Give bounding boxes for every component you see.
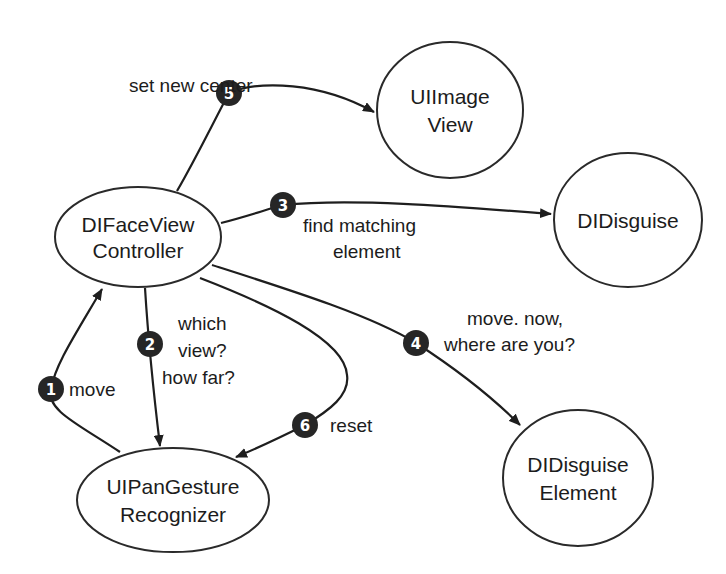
node-label-line-1: DIDisguise (577, 209, 679, 232)
edge-label-set-new-center: set new center (129, 75, 253, 96)
node-label-line-2: Element (539, 481, 616, 504)
node-label-line-1: UIImage (410, 85, 489, 108)
edge-label-element: element (333, 241, 401, 262)
flow-diagram: DIFaceView Controller UIImage View DIDis… (0, 0, 726, 574)
node-label-line-2: View (427, 113, 473, 136)
svg-text:4: 4 (411, 335, 421, 353)
node-di-disguise-element: DIDisguise Element (503, 410, 653, 546)
node-label-line-1: DIDisguise (527, 453, 629, 476)
node-label-line-1: DIFaceView (82, 213, 196, 236)
node-di-disguise: DIDisguise (554, 153, 702, 287)
node-label-line-1: UIPanGesture (106, 475, 239, 498)
step-badge-4: 4 (403, 330, 429, 356)
step-badge-1: 1 (38, 376, 64, 402)
svg-text:6: 6 (300, 417, 310, 435)
node-ui-image-view: UIImage View (377, 42, 523, 178)
edge-2-which-view (145, 288, 160, 446)
svg-text:2: 2 (145, 336, 155, 354)
edge-5-set-center (177, 85, 374, 191)
edge-label-move: move (69, 379, 115, 400)
svg-text:1: 1 (46, 381, 56, 399)
edge-label-reset: reset (330, 415, 373, 436)
node-label-line-2: Controller (92, 239, 183, 262)
step-badge-6: 6 (292, 412, 318, 438)
step-badge-3: 3 (270, 192, 296, 218)
node-label-line-2: Recognizer (120, 503, 226, 526)
node-di-face-view-controller: DIFaceView Controller (55, 187, 221, 287)
edge-label-how-far: how far? (162, 367, 235, 388)
edge-label-where-are-you: where are you? (443, 334, 575, 355)
edge-label-view: view? (178, 340, 227, 361)
node-ui-pan-gesture-recognizer: UIPanGesture Recognizer (77, 448, 269, 552)
step-badge-2: 2 (137, 331, 163, 357)
svg-text:3: 3 (278, 197, 288, 215)
edge-label-which: which (177, 313, 227, 334)
edge-label-find-matching: find matching (303, 215, 416, 236)
edge-1-move (50, 289, 120, 452)
edge-label-move-now: move. now, (467, 308, 563, 329)
